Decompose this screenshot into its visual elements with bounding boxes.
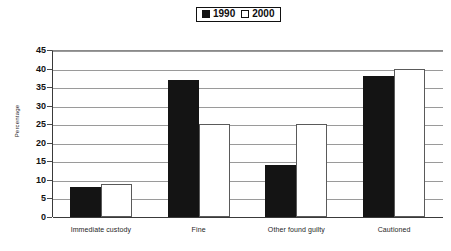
bar-chart: 1990 2000 Percentage 454035302520151050 … <box>0 0 451 251</box>
hollow-square-icon <box>241 10 249 18</box>
bar-groups <box>53 51 443 217</box>
bar-2000-fine <box>199 124 230 217</box>
bar-1990-cautioned <box>363 76 394 217</box>
x-axis-label: Fine <box>150 226 248 233</box>
x-axis-label: Cautioned <box>345 226 443 233</box>
x-axis-label: Other found guilty <box>248 226 346 233</box>
bar-2000-other-found-guilty <box>296 124 327 217</box>
x-axis-labels: Immediate custodyFineOther found guiltyC… <box>52 226 443 233</box>
bar-group <box>151 51 249 217</box>
y-axis-title: Percentage <box>14 91 20 151</box>
x-axis-label: Immediate custody <box>52 226 150 233</box>
bar-1990-fine <box>168 80 199 217</box>
y-axis-tick-15: 15 <box>24 157 46 166</box>
y-axis-tick-45: 45 <box>24 46 46 55</box>
tick-mark-0 <box>47 217 52 218</box>
y-axis-tick-30: 30 <box>24 101 46 110</box>
bar-1990-other-found-guilty <box>265 165 296 217</box>
gridline-0 <box>53 217 443 218</box>
legend-label-1990: 1990 <box>213 9 235 19</box>
y-axis-tick-5: 5 <box>24 194 46 203</box>
y-axis-tick-35: 35 <box>24 83 46 92</box>
plot-area <box>52 50 443 217</box>
bar-group <box>248 51 346 217</box>
chart-legend: 1990 2000 <box>196 7 281 22</box>
y-axis-tick-25: 25 <box>24 120 46 129</box>
legend-entry-1990: 1990 <box>202 9 235 19</box>
y-axis-tick-labels: 454035302520151050 <box>24 44 46 218</box>
bar-2000-cautioned <box>394 69 425 217</box>
filled-square-icon <box>202 10 210 18</box>
y-axis-tick-0: 0 <box>24 213 46 222</box>
y-axis-tick-20: 20 <box>24 138 46 147</box>
bar-1990-immediate-custody <box>70 187 101 217</box>
bar-group <box>53 51 151 217</box>
y-axis-tick-10: 10 <box>24 175 46 184</box>
bar-group <box>346 51 444 217</box>
legend-entry-2000: 2000 <box>241 9 274 19</box>
legend-label-2000: 2000 <box>252 9 274 19</box>
bar-2000-immediate-custody <box>101 184 132 217</box>
y-axis-tick-40: 40 <box>24 64 46 73</box>
